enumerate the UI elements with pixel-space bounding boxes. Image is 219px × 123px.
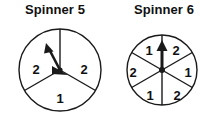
spinner-5-label-left: 2 [32, 62, 39, 77]
spinner-5-figure: Spinner 5 2 2 1 [0, 0, 110, 123]
spinner-5-label-right: 2 [80, 62, 87, 77]
spinner-5-pivot [57, 67, 62, 72]
spinner-6-label-right: 1 [184, 65, 191, 80]
spinner-5-diagram: 2 2 1 [0, 20, 110, 120]
spinner-6-pivot [159, 67, 165, 73]
spinner-6-label-upper-right: 2 [172, 43, 179, 58]
spinner-6-label-lower-left: 1 [146, 88, 153, 103]
spinner-worksheet: Spinner 5 2 2 1 Spinner 6 [0, 0, 219, 123]
spinner-6-figure: Spinner 6 1 2 2 1 1 2 [109, 0, 219, 123]
spinner-6-label-left: 2 [129, 65, 136, 80]
spinner-6-title: Spinner 6 [109, 2, 219, 17]
spinner-6-label-upper-left: 1 [145, 43, 152, 58]
spinner-6-label-lower-right: 2 [173, 88, 180, 103]
spinner-5-label-bottom: 1 [56, 91, 63, 106]
spinner-5-title: Spinner 5 [0, 2, 110, 17]
spinner-6-diagram: 1 2 2 1 1 2 [109, 20, 219, 120]
